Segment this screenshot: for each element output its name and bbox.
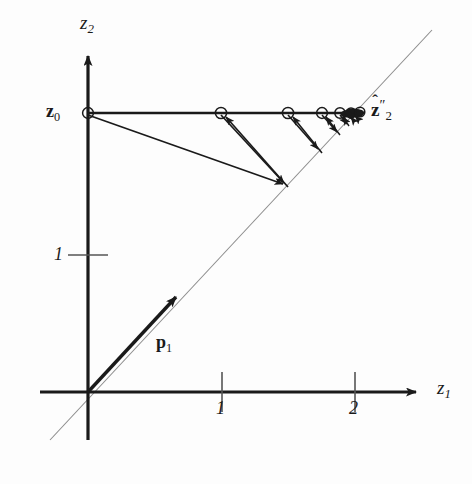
point-label-z0: z0 bbox=[46, 101, 60, 125]
diagram-svg bbox=[0, 0, 472, 484]
vector-label-p1: p1 bbox=[156, 332, 172, 356]
x-tick-label-1: 1 bbox=[216, 398, 225, 419]
y-tick-label-1: 1 bbox=[54, 244, 63, 265]
y-axis-label: z2 bbox=[80, 12, 94, 37]
point-label-z-hat-double-prime: ˆz″2 bbox=[371, 97, 392, 124]
zigzag-up-arrows bbox=[226, 116, 357, 187]
zigzag-down-arrows bbox=[88, 115, 353, 184]
x-tick-label-2: 2 bbox=[349, 398, 358, 419]
figure-canvas: z2 z1 z0 ˆz″2 p1 1 2 1 bbox=[0, 0, 472, 484]
x-axis-label: z1 bbox=[437, 377, 451, 402]
